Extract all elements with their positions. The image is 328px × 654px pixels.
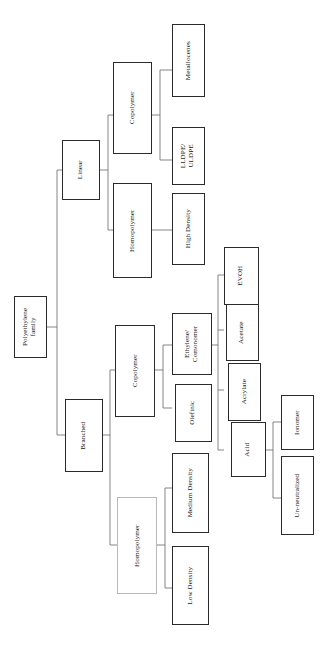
node-branched-homopolymer[interactable]: Homopolymer xyxy=(117,497,157,594)
node-label: High Density xyxy=(185,209,192,248)
node-ethylene-comonomer[interactable]: Ethylene/ Comonomer xyxy=(172,313,212,375)
node-high-density[interactable]: High Density xyxy=(172,193,205,265)
node-label: Copolymer xyxy=(131,355,138,388)
node-label: Acetate xyxy=(239,321,246,343)
node-linear-copolymer[interactable]: Copolymer xyxy=(113,62,152,154)
node-label: Ionomer xyxy=(294,410,301,435)
node-acrylate[interactable]: Acrylate xyxy=(228,363,261,421)
node-label: Homopolymer xyxy=(129,209,136,251)
connector-edges xyxy=(0,0,328,654)
node-acetate[interactable]: Acetate xyxy=(226,304,259,361)
node-linear-homopolymer[interactable]: Homopolymer xyxy=(113,183,152,278)
node-branched[interactable]: Branched xyxy=(65,399,103,472)
node-label: Metallocenes xyxy=(185,41,192,80)
node-label: Branched xyxy=(80,422,87,450)
node-label: Low Density xyxy=(187,567,194,605)
node-label: Linear xyxy=(77,160,84,179)
node-ionomer[interactable]: Ionomer xyxy=(281,395,314,450)
node-label: Polyethylene family xyxy=(23,308,39,346)
node-label: Ethylene/ Comonomer xyxy=(184,326,200,362)
node-olefinic[interactable]: Olefinic xyxy=(175,384,212,442)
node-polyethylene-family[interactable]: Polyethylene family xyxy=(14,296,47,358)
node-metallocenes[interactable]: Metallocenes xyxy=(172,24,205,97)
node-label: Copolymer xyxy=(129,92,136,125)
node-branched-copolymer[interactable]: Copolymer xyxy=(115,325,155,417)
node-acid[interactable]: Acid xyxy=(231,422,266,477)
node-label: Un-neutralized xyxy=(294,474,301,518)
node-label: Medium Density xyxy=(187,468,194,517)
node-label: Acrylate xyxy=(241,379,248,404)
node-label: Homopolymer xyxy=(133,524,140,566)
node-evoh[interactable]: EVOH xyxy=(224,247,259,305)
node-un-neutralized[interactable]: Un-neutralized xyxy=(281,456,314,535)
node-linear[interactable]: Linear xyxy=(62,140,100,200)
node-label: LLDPE/ ULDPE xyxy=(181,144,197,169)
polyethylene-family-diagram: Polyethylene family Linear Branched Copo… xyxy=(0,0,328,654)
node-label: Acid xyxy=(245,442,252,456)
node-label: Olefinic xyxy=(190,401,197,425)
node-label: EVOH xyxy=(238,266,245,286)
node-low-density[interactable]: Low Density xyxy=(172,546,209,625)
node-medium-density[interactable]: Medium Density xyxy=(172,453,209,533)
node-lldpe-uldpe[interactable]: LLDPE/ ULDPE xyxy=(172,127,205,185)
